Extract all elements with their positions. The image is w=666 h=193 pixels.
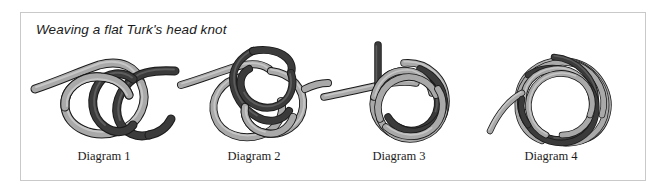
diagram-caption: Diagram 3 <box>324 149 474 164</box>
turks-head-knot-figure: Weaving a flat Turk's head knot <box>0 0 666 193</box>
knot-step-4-icon <box>476 41 626 149</box>
diagram-cell-3: Diagram 3 <box>324 41 474 177</box>
diagram-cell-1: Diagram 1 <box>29 41 179 177</box>
knot-step-3-icon <box>324 41 474 149</box>
figure-title: Weaving a flat Turk's head knot <box>36 22 227 37</box>
diagram-caption: Diagram 4 <box>476 149 626 164</box>
diagram-cell-2: Diagram 2 <box>179 41 329 177</box>
diagram-caption: Diagram 2 <box>179 149 329 164</box>
figure-panel: Weaving a flat Turk's head knot <box>20 12 646 181</box>
knot-step-1-icon <box>29 41 179 149</box>
knot-step-2-icon <box>179 41 329 149</box>
diagram-cell-4: Diagram 4 <box>476 41 626 177</box>
diagram-caption: Diagram 1 <box>29 149 179 164</box>
